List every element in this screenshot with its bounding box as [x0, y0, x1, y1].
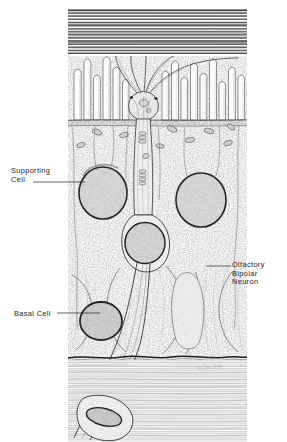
label-supporting-cell: Supporting Cell [11, 167, 50, 184]
label-basal-cell: Basal Cell [14, 310, 51, 319]
terminal-bar-band [68, 119, 247, 126]
lamina-propria [68, 360, 247, 442]
basal-cell [80, 302, 122, 340]
label-olfactory-bipolar-neuron: Olfactory Bipolar Neuron [232, 261, 265, 287]
olfactory-epithelium-illustration [0, 0, 287, 442]
dendritic-knob [129, 92, 159, 121]
basal-cell-secondary [172, 273, 204, 350]
artist-signature: sclwink [197, 362, 223, 370]
neuron-soma [122, 215, 170, 272]
olfactory-epithelium [68, 47, 247, 404]
dendrite [134, 119, 153, 215]
mucus-layer [68, 9, 247, 54]
